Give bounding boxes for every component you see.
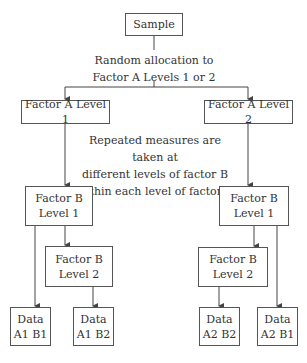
sample-label: Sample <box>133 17 175 32</box>
left-factor-b-level-2-box: Factor B Level 2 <box>45 246 113 287</box>
factor-a-level-2-box: Factor A Level 2 <box>204 100 293 124</box>
data-a2b1-label: A2 B1 <box>261 327 295 342</box>
right-factor-b-level-1-title: Factor B <box>230 191 278 206</box>
right-factor-b-level-2-title: Factor B <box>209 252 257 267</box>
left-factor-b-level-1-box: Factor B Level 1 <box>25 186 93 226</box>
data-a2b2-title: Data <box>206 312 232 327</box>
data-a1b1-title: Data <box>17 312 43 327</box>
data-a2b1-title: Data <box>264 312 290 327</box>
allocation-note-line-1: Random allocation to <box>54 52 254 69</box>
right-factor-b-level-2-box: Factor B Level 2 <box>198 247 268 287</box>
repeated-note-line-1: Repeated measures are taken at <box>74 132 236 166</box>
repeated-note-line-3: within each level of factor A <box>74 183 236 200</box>
allocation-note-line-2: Factor A Levels 1 or 2 <box>54 69 254 86</box>
factor-a-level-1-box: Factor A Level 1 <box>21 100 110 124</box>
left-factor-b-level-2-title: Factor B <box>55 252 103 267</box>
factor-a-level-1-label: Factor A Level 1 <box>22 97 109 127</box>
right-factor-b-level-1-level: Level 1 <box>234 206 275 221</box>
repeated-measures-note: Repeated measures are taken at different… <box>74 132 236 200</box>
factor-a-level-2-label: Factor A Level 2 <box>205 97 292 127</box>
data-a2b2-box: Data A2 B2 <box>199 307 240 346</box>
allocation-note: Random allocation to Factor A Levels 1 o… <box>54 52 254 86</box>
data-a1b1-box: Data A1 B1 <box>10 307 51 346</box>
repeated-note-line-2: different levels of factor B <box>74 166 236 183</box>
data-a1b1-label: A1 B1 <box>14 327 48 342</box>
right-factor-b-level-2-level: Level 2 <box>213 267 254 282</box>
data-a1b2-title: Data <box>80 312 106 327</box>
data-a2b1-box: Data A2 B1 <box>257 307 298 346</box>
data-a2b2-label: A2 B2 <box>203 327 237 342</box>
sample-box: Sample <box>125 13 183 36</box>
left-factor-b-level-1-title: Factor B <box>35 191 83 206</box>
left-factor-b-level-2-level: Level 2 <box>59 267 100 282</box>
right-factor-b-level-1-box: Factor B Level 1 <box>219 186 289 226</box>
data-a1b2-label: A1 B2 <box>77 327 111 342</box>
left-factor-b-level-1-level: Level 1 <box>39 206 80 221</box>
data-a1b2-box: Data A1 B2 <box>73 307 114 346</box>
